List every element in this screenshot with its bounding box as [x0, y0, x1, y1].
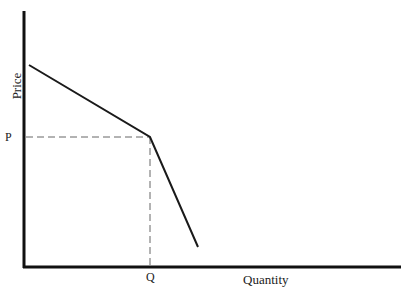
- x-axis-label: Quantity: [243, 272, 289, 288]
- demand-curve: [29, 65, 198, 247]
- price-marker-label: P: [5, 130, 12, 145]
- quantity-marker-label: Q: [146, 270, 155, 285]
- kinked-demand-diagram: [0, 0, 410, 293]
- y-axis-label: Price: [9, 66, 25, 106]
